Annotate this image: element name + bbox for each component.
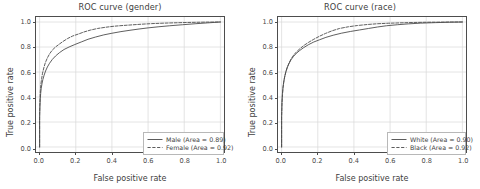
- legend-item-female[interactable]: Female (Area = 0.92): [147, 144, 220, 152]
- y-tick-right-2: 0.4: [256, 94, 273, 102]
- legend-item-male[interactable]: Male (Area = 0.89): [147, 136, 220, 144]
- x-tick-left-0: 0.0: [29, 157, 49, 165]
- panel-gender: ROC curve (gender) True positive rate Fa…: [0, 0, 240, 189]
- y-tick-right-1: 0.2: [256, 119, 273, 127]
- x-tickmark-left-0: [39, 153, 40, 155]
- x-tickmark-left-2: [112, 153, 113, 155]
- x-tickmark-left-1: [75, 153, 76, 155]
- legend-line-solid-icon: [147, 136, 163, 143]
- legend-label-white: White (Area = 0.90): [410, 136, 473, 144]
- y-tick-left-2: 0.4: [14, 94, 31, 102]
- x-tick-left-2: 0.4: [102, 157, 122, 165]
- roc-curve-0: [40, 22, 221, 147]
- x-tick-left-5: 1.0: [211, 157, 231, 165]
- legend-gender: Male (Area = 0.89) Female (Area = 0.92): [143, 132, 224, 155]
- panel-title-gender: ROC curve (gender): [0, 2, 240, 12]
- x-tickmark-right-1: [317, 153, 318, 155]
- panel-race: ROC curve (race) True positive rate Fals…: [240, 0, 480, 189]
- roc-curve-1: [282, 22, 463, 147]
- x-tick-right-2: 0.4: [344, 157, 364, 165]
- legend-item-black[interactable]: Black (Area = 0.92): [391, 144, 462, 152]
- legend-item-white[interactable]: White (Area = 0.90): [391, 136, 462, 144]
- y-tick-left-4: 0.8: [14, 43, 31, 51]
- roc-curve-1: [40, 22, 221, 147]
- x-tickmark-right-2: [354, 153, 355, 155]
- roc-curves-figure: ROC curve (gender) True positive rate Fa…: [0, 0, 480, 189]
- x-tick-right-3: 0.6: [380, 157, 400, 165]
- y-tick-left-0: 0.0: [14, 145, 31, 153]
- x-tick-left-3: 0.6: [138, 157, 158, 165]
- legend-label-male: Male (Area = 0.89): [166, 136, 226, 144]
- legend-line-dashed-icon: [147, 144, 163, 151]
- x-tick-left-1: 0.2: [65, 157, 85, 165]
- y-tick-left-5: 1.0: [14, 18, 31, 26]
- legend-race: White (Area = 0.90) Black (Area = 0.92): [387, 132, 466, 155]
- y-tick-right-5: 1.0: [256, 18, 273, 26]
- y-tick-right-3: 0.6: [256, 69, 273, 77]
- legend-line-dashed-icon: [391, 144, 407, 151]
- x-tick-right-0: 0.0: [271, 157, 291, 165]
- x-tickmark-right-0: [281, 153, 282, 155]
- x-axis-label-left: False positive rate: [35, 174, 225, 183]
- panel-title-race: ROC curve (race): [240, 2, 480, 12]
- x-tick-left-4: 0.8: [175, 157, 195, 165]
- legend-label-black: Black (Area = 0.92): [410, 144, 472, 152]
- legend-label-female: Female (Area = 0.92): [166, 144, 233, 152]
- roc-curve-0: [282, 22, 463, 147]
- x-tick-right-5: 1.0: [453, 157, 473, 165]
- x-axis-label-right: False positive rate: [277, 174, 467, 183]
- y-tick-right-4: 0.8: [256, 43, 273, 51]
- y-tick-right-0: 0.0: [256, 145, 273, 153]
- x-tick-right-4: 0.8: [417, 157, 437, 165]
- legend-line-solid-icon: [391, 136, 407, 143]
- y-tick-left-3: 0.6: [14, 69, 31, 77]
- x-tick-right-1: 0.2: [307, 157, 327, 165]
- y-tick-left-1: 0.2: [14, 119, 31, 127]
